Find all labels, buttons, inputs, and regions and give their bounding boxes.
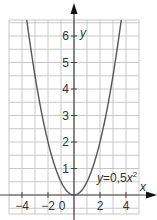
x-tick-label: 4 [123, 199, 130, 213]
x-tick-label: 0 [59, 199, 66, 213]
y-tick-label: 1 [62, 162, 69, 176]
x-axis-label: x [139, 180, 147, 194]
y-axis-label: y [79, 26, 87, 40]
x-tick-label: 2 [97, 199, 104, 213]
x-tick-label: −4 [15, 199, 29, 213]
y-tick-label: 5 [62, 56, 69, 70]
equation-label: y=0,5x2 [96, 170, 138, 185]
y-tick-label: 4 [62, 82, 69, 96]
x-tick-label: −2 [41, 199, 55, 213]
parabola-chart: −4−2024 123456 x y y=0,5x2 [0, 0, 157, 220]
y-tick-label: 6 [62, 29, 69, 43]
y-tick-label: 2 [62, 135, 69, 149]
x-tick-labels: −4−2024 [15, 199, 130, 213]
y-tick-label: 3 [62, 109, 69, 123]
